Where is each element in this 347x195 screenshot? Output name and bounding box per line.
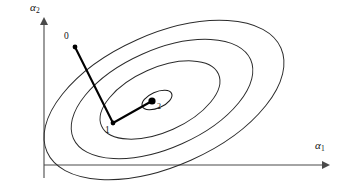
path-node-2-dot	[148, 97, 155, 104]
point-label-0: 0	[64, 32, 69, 42]
point-label-2: 2	[157, 103, 161, 111]
descent-path	[75, 47, 152, 123]
contour-outer-1	[20, 0, 308, 195]
contour-figure: α2 α1 0 1 2	[0, 0, 347, 195]
y-axis-arrow-icon	[40, 17, 48, 25]
x-axis-label-subscript: 1	[321, 144, 325, 153]
contour-2	[53, 15, 270, 183]
x-axis-arrow-icon	[322, 161, 330, 169]
y-axis-label-base: α	[30, 1, 36, 13]
x-axis-label-base: α	[315, 139, 321, 151]
descent-path-group	[73, 45, 156, 126]
y-axis-label: α2	[30, 2, 40, 15]
contour-3	[89, 45, 232, 156]
path-node-1-dot	[111, 121, 116, 126]
contour-group	[20, 0, 308, 195]
x-axis-label: α1	[315, 140, 325, 153]
point-label-1: 1	[105, 126, 110, 136]
y-axis-label-subscript: 2	[36, 6, 40, 15]
path-node-0-dot	[73, 45, 78, 50]
figure-canvas	[0, 0, 347, 195]
